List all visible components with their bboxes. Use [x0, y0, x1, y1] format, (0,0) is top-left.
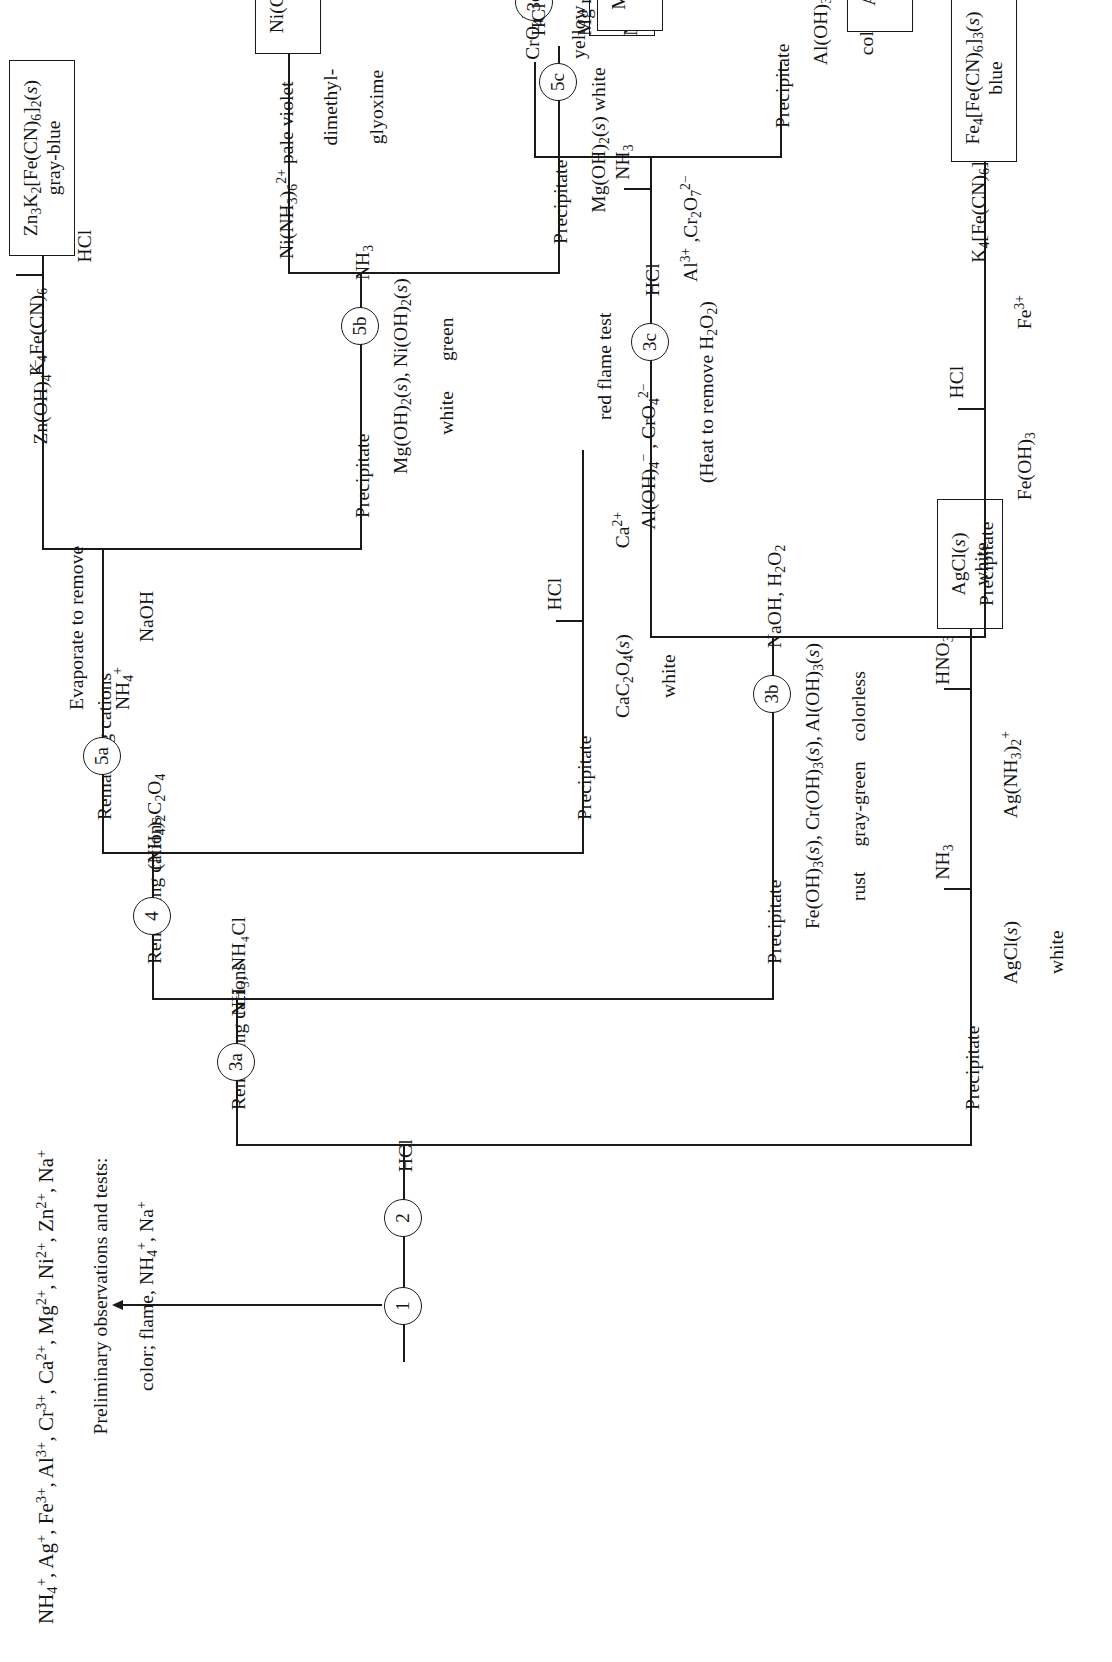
split-5b-vertical	[360, 272, 558, 274]
fe-box-line-1: Fe4[Fe(CN)6]3(s)	[962, 11, 983, 144]
zn-box-line-1: Zn3K2[Fe(CN)6]2(s)	[20, 80, 41, 236]
group3-to-3b-line	[772, 638, 774, 854]
mgni-line-1: Mg(OH)2(s), Ni(OH)2(s)	[390, 278, 411, 474]
preliminary-line-2: color; flame, NH4+, Na+	[136, 1201, 157, 1391]
reagent-3a: NH₃, NH₄Cl	[204, 917, 273, 1036]
evaporate-line-2: NH4+	[112, 667, 133, 710]
feoh3-text: Fe(OH)3	[1014, 432, 1035, 500]
evaporate-line-1: Evaporate to remove	[66, 546, 87, 710]
group3-hydroxides-label: Fe(OH)3(s), Cr(OH)3(s), Al(OH)3(s) rust …	[778, 643, 893, 949]
reagent-ag-nh3: NH3	[908, 844, 977, 899]
step-3a-marker: 3a	[217, 1043, 255, 1081]
flowchart-canvas: NH4+, Ag+, Fe3+, Al3+, Cr3+, Ca2+, Mg2+,…	[0, 0, 1112, 1662]
reagent-ca-hcl: HCl	[520, 578, 589, 631]
split-3a-vertical	[236, 998, 772, 1000]
naoh-5a-text: NaOH	[136, 591, 157, 642]
heat-note-label: (Heat to remove H2O2)	[672, 301, 741, 503]
step-5b-label: 5b	[349, 317, 371, 336]
zn-hcl-text: HCl	[74, 230, 95, 263]
precipitate-label-ca: Precipitate	[550, 736, 619, 840]
step-5a-label: 5a	[91, 747, 113, 765]
zn-ferro-text: K4Fe(CN)6	[26, 288, 47, 376]
mgni-hydroxides-label: Mg(OH)2(s), Ni(OH)2(s) white green	[366, 278, 481, 494]
step-3a-label: 3a	[225, 1053, 247, 1071]
precipitate-label-ag: Precipitate	[938, 1026, 1007, 1130]
mg-hcl-text: HCl	[528, 3, 549, 36]
ni-to-dmg-line	[288, 54, 290, 180]
feoh3-label: Fe(OH)3	[990, 432, 1059, 520]
dmg-line-1: dimethyl-	[320, 69, 341, 146]
step-4-marker: 4	[133, 897, 171, 935]
mg-box-line-1: Mg(OH)2(s)	[608, 0, 629, 10]
agcl-formula: AgCl(s)	[1000, 921, 1021, 985]
reagent-5a-naoh: NaOH	[112, 591, 181, 662]
mgoh2-white-text: Mg(OH)2(s) white	[588, 67, 609, 212]
reagent-ni-dmg: dimethyl- glyoxime	[296, 69, 411, 166]
mgoh2-white-label: Mg(OH)2(s) white	[564, 67, 633, 232]
step-5a-marker: 5a	[83, 737, 121, 775]
ca-hcl-text: HCl	[544, 578, 565, 611]
reagent-ag-hno3: HNO3	[908, 635, 977, 704]
step-5c-marker: 5c	[539, 63, 577, 101]
step-1-marker: 1	[384, 1287, 422, 1325]
ag-hno3-text: HNO3	[932, 635, 953, 684]
split-2-vertical	[403, 1144, 971, 1146]
agcl-white-text: white	[1046, 930, 1067, 974]
step-2-label: 2	[392, 1213, 414, 1223]
zn-box-line-2: gray-blue	[43, 121, 64, 196]
result-box-ni: Ni(C4H7N2O2)2(s) red	[255, 0, 321, 54]
precipitate-label-fe: Precipitate	[952, 522, 1021, 626]
ag-ammine-text: Ag(NH3)2+	[1000, 731, 1021, 818]
step-3c-label: 3c	[639, 333, 661, 351]
precipitate-text-fe: Precipitate	[976, 522, 997, 606]
al-box-line-1: Al(OH)3(s)	[858, 0, 879, 6]
ca2plus-to-flame-line	[582, 450, 584, 572]
reagent-4-text: (NH4)2C2O4	[144, 774, 165, 871]
reagent-5b-text: NH3	[352, 245, 373, 280]
agcl-white-label: AgCl(s) white	[976, 921, 1091, 1003]
split-3a-vertical-up	[152, 998, 238, 1000]
ag-nh3-text: NH3	[932, 844, 953, 879]
reagent-3a-text: NH₃, NH₄Cl	[228, 917, 249, 1016]
ag-box-connector	[970, 628, 972, 634]
fe-ferro-text: K4[Fe(CN)6]	[968, 161, 989, 262]
split-4-vertical-up	[102, 852, 154, 854]
group3-line-1: Fe(OH)3(s), Cr(OH)3(s), Al(OH)3(s)	[802, 643, 823, 929]
split-5a-vertical-up	[42, 548, 104, 550]
alcr-acid-label: Al3+ ,Cr2O72−	[656, 175, 725, 301]
dmg-line-2: glyoxime	[366, 70, 387, 144]
reagent-zn-ferrocyanide: K4Fe(CN)6	[2, 288, 71, 396]
split-3c-vertical	[650, 156, 780, 158]
ni-box-line-1: Ni(C4H7N2O2)2(s)	[266, 0, 287, 33]
ca2plus-label: Ca2+	[588, 512, 657, 569]
red-flame-test-label: red flame test	[570, 313, 639, 440]
result-box-fe: Fe4[Fe(CN)6]3(s) blue	[951, 0, 1017, 162]
reagent-3b: NaOH, H2O2	[740, 545, 809, 668]
fe-box-line-2: blue	[985, 61, 1006, 95]
fe3plus-label: Fe3+	[990, 295, 1059, 349]
zn-hcl-tick	[16, 274, 42, 276]
cac2o4-label: CaC2O4(s) white	[588, 634, 703, 738]
mg-reagent-text: Mg reagent	[574, 0, 595, 36]
step-3b-label: 3b	[761, 685, 783, 704]
red-flame-test-text: red flame test	[594, 313, 615, 421]
step-3b-marker: 3b	[753, 675, 791, 713]
split-5a-vertical	[102, 548, 360, 550]
heat-note-text: (Heat to remove H2O2)	[696, 301, 717, 483]
cac2o4-white-text: white	[658, 654, 679, 698]
fe3plus-text: Fe3+	[1014, 295, 1035, 329]
preliminary-line-1: Preliminary observations and tests:	[90, 1158, 111, 1435]
preliminary-tests-label: Preliminary observations and tests: colo…	[66, 1158, 181, 1455]
split-2-vertical-up	[236, 1144, 404, 1146]
step-5c-label: 5c	[547, 73, 569, 91]
precipitate-text-ag: Precipitate	[962, 1026, 983, 1110]
result-box-zn: Zn3K2[Fe(CN)6]2(s) gray-blue	[9, 60, 75, 256]
alcr-ions-text: Al(OH)4− , CrO42−	[638, 383, 659, 529]
step-1-label: 1	[392, 1301, 414, 1311]
mgni-line-2: white green	[436, 317, 457, 434]
zn-box-connector	[42, 256, 44, 276]
group3-line-2: rust gray-green colorless	[848, 671, 869, 901]
reagent-fe-ferrocyanide: K4[Fe(CN)6]	[944, 161, 1013, 282]
branch-5a-solution	[102, 548, 104, 688]
reagent-3b-text: NaOH, H2O2	[764, 545, 785, 648]
